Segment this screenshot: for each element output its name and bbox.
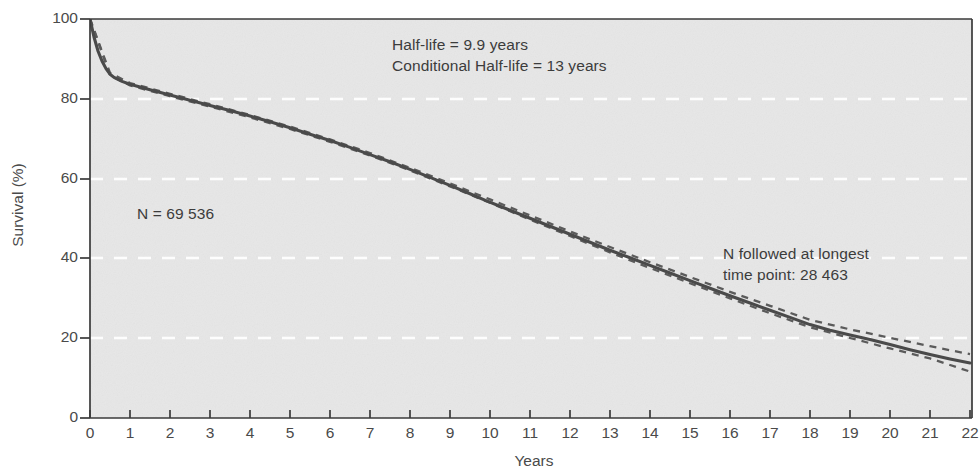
- y-tick-label-100: 100: [32, 9, 78, 27]
- x-tick-label-22: 22: [950, 424, 980, 442]
- x-tick-label-2: 2: [150, 424, 190, 442]
- x-tick-label-12: 12: [550, 424, 590, 442]
- x-tick-label-1: 1: [110, 424, 150, 442]
- x-tick-label-7: 7: [350, 424, 390, 442]
- annotation-n-total: N = 69 536: [137, 203, 214, 224]
- x-tick-label-0: 0: [70, 424, 110, 442]
- y-tick-label-40: 40: [32, 248, 78, 266]
- y-tick-label-80: 80: [32, 89, 78, 107]
- x-tick-label-14: 14: [630, 424, 670, 442]
- x-tick-label-11: 11: [510, 424, 550, 442]
- x-tick-label-5: 5: [270, 424, 310, 442]
- x-tick-label-4: 4: [230, 424, 270, 442]
- x-tick-label-20: 20: [870, 424, 910, 442]
- annotation-n-followed-line2: time point: 28 463: [723, 264, 869, 285]
- x-tick-label-6: 6: [310, 424, 350, 442]
- x-axis-title-text: Years: [514, 452, 553, 469]
- annotation-conditional-halflife-line2: Conditional Half-life = 13 years: [392, 55, 607, 76]
- annotation-halflife: Half-life = 9.9 years Conditional Half-l…: [392, 34, 607, 76]
- x-tick-label-16: 16: [710, 424, 750, 442]
- y-tick-label-20: 20: [32, 328, 78, 346]
- x-tick-label-13: 13: [590, 424, 630, 442]
- x-tick-label-9: 9: [430, 424, 470, 442]
- x-tick-label-17: 17: [750, 424, 790, 442]
- annotation-n-followed: N followed at longest time point: 28 463: [723, 243, 869, 285]
- x-axis-title: Years: [0, 452, 980, 470]
- x-tick-label-18: 18: [790, 424, 830, 442]
- y-axis-ticks: [80, 19, 90, 418]
- x-tick-label-3: 3: [190, 424, 230, 442]
- y-axis-title: Survival (%): [9, 105, 27, 305]
- survival-chart-figure: 100 80 60 40 20 0 0 1 2 3 4 5 6 7 8 9 10…: [0, 0, 980, 476]
- annotation-halflife-line1: Half-life = 9.9 years: [392, 34, 607, 55]
- y-tick-label-60: 60: [32, 169, 78, 187]
- x-tick-label-19: 19: [830, 424, 870, 442]
- x-tick-label-21: 21: [910, 424, 950, 442]
- annotation-n-followed-line1: N followed at longest: [723, 243, 869, 264]
- x-tick-label-15: 15: [670, 424, 710, 442]
- x-tick-label-10: 10: [470, 424, 510, 442]
- x-tick-label-8: 8: [390, 424, 430, 442]
